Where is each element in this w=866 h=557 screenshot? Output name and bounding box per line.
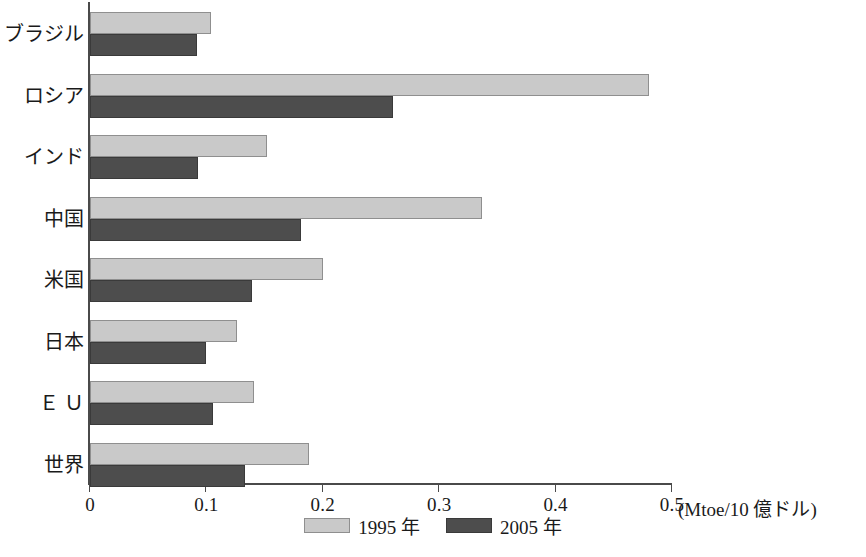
bar-2005 <box>90 157 198 179</box>
x-tick <box>671 485 672 492</box>
legend-label-2005: 2005 年 <box>500 512 562 539</box>
bar-1995 <box>90 12 211 34</box>
bar-2005 <box>90 219 301 241</box>
bar-1995 <box>90 320 237 342</box>
category-label: ブラジル <box>4 24 84 44</box>
bar-2005 <box>90 34 197 56</box>
bar-1995 <box>90 74 649 96</box>
bar-2005 <box>90 465 245 487</box>
bar-chart: 00.10.20.30.40.5 ブラジルロシアインド中国米国日本Ｅ Ｕ世界 (… <box>0 0 866 557</box>
x-tick <box>438 485 439 492</box>
bar-1995 <box>90 258 323 280</box>
legend-swatch-2005 <box>446 518 492 533</box>
category-label: 世界 <box>44 455 84 475</box>
bar-1995 <box>90 381 254 403</box>
legend-label-1995: 1995 年 <box>358 512 420 539</box>
plot-area: 00.10.20.30.40.5 ブラジルロシアインド中国米国日本Ｅ Ｕ世界 (… <box>0 0 866 490</box>
legend-swatch-1995 <box>304 518 350 533</box>
x-tick <box>322 485 323 492</box>
bar-2005 <box>90 342 206 364</box>
bar-2005 <box>90 403 213 425</box>
legend-item-2005: 2005 年 <box>446 512 562 539</box>
bar-1995 <box>90 135 267 157</box>
bar-2005 <box>90 96 393 118</box>
category-label: 日本 <box>44 332 84 352</box>
bar-2005 <box>90 280 252 302</box>
bar-1995 <box>90 197 482 219</box>
legend-item-1995: 1995 年 <box>304 512 420 539</box>
category-label: 米国 <box>44 270 84 290</box>
x-tick <box>555 485 556 492</box>
bar-1995 <box>90 443 309 465</box>
category-label: 中国 <box>44 209 84 229</box>
category-label: ロシア <box>24 86 84 106</box>
chart-legend: 1995 年 2005 年 <box>0 512 866 539</box>
category-label: インド <box>24 147 84 167</box>
category-label: Ｅ Ｕ <box>39 393 84 413</box>
